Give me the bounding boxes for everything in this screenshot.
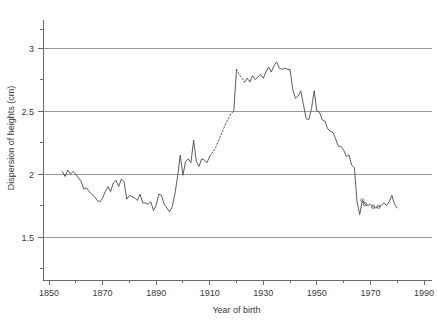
- series-0-segment-0-solid: [62, 140, 209, 212]
- figure-container: 185018701890191019301950197019901.522.53…: [0, 0, 437, 323]
- x-tick-label-1950: 1950: [307, 288, 327, 298]
- figure-caption-strip: [0, 317, 437, 323]
- y-axis: [38, 20, 43, 280]
- x-tick-label-1990: 1990: [414, 288, 434, 298]
- x-tick-label-1890: 1890: [146, 288, 166, 298]
- y-tick-label-2.5: 2.5: [21, 107, 34, 117]
- x-tick-label-1910: 1910: [200, 288, 220, 298]
- series-0-segment-2-solid: [234, 69, 237, 111]
- y-tick-label-3: 3: [29, 44, 34, 54]
- x-tick-label-1870: 1870: [93, 288, 113, 298]
- axis-titles: Year of birthDispersion of heights (cm): [6, 86, 261, 315]
- dispersion-of-heights-line-chart: 185018701890191019301950197019901.522.53…: [0, 0, 437, 323]
- series-0-segment-1-dashed: [210, 111, 234, 156]
- x-tick-label-1930: 1930: [253, 288, 273, 298]
- y-tick-label-1.5: 1.5: [21, 233, 34, 243]
- x-tick-label-1970: 1970: [360, 288, 380, 298]
- series-0-segment-3-dashed: [237, 69, 245, 82]
- y-axis-title: Dispersion of heights (cm): [6, 86, 16, 191]
- y-tick-label-2: 2: [29, 170, 34, 180]
- x-tick-label-1850: 1850: [39, 288, 59, 298]
- x-axis: [43, 280, 432, 285]
- x-axis-title: Year of birth: [212, 305, 260, 315]
- tick-labels: 185018701890191019301950197019901.522.53: [21, 44, 434, 299]
- data-series: [62, 62, 397, 214]
- series-0-segment-4-solid: [245, 62, 360, 214]
